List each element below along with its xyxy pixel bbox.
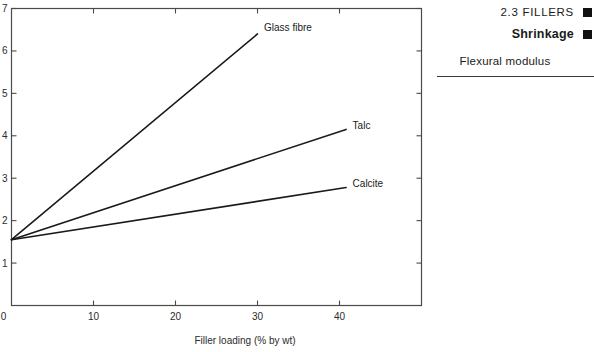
- x-tick-label: 40: [334, 311, 346, 322]
- series-labels-group: Glass fibreTalcCalcite: [264, 22, 384, 189]
- black-square-marker-icon: [583, 30, 592, 39]
- page-header-panel: 2.3 FILLERS Shrinkage Flexural modulus: [430, 0, 594, 352]
- running-head-label: 2.3 FILLERS: [500, 6, 574, 18]
- chart-figure: 1234567 010203040 Glass fibreTalcCalcite…: [0, 0, 430, 352]
- x-tick-label: 10: [88, 311, 100, 322]
- caption-divider: [437, 76, 594, 77]
- x-tick-label: 30: [252, 311, 264, 322]
- figure-caption: Flexural modulus: [430, 55, 594, 67]
- x-tick-label: 0: [1, 311, 7, 322]
- flexural-modulus-line-chart: 1234567 010203040 Glass fibreTalcCalcite…: [0, 0, 430, 352]
- x-axis-title: Filler loading (% by wt): [194, 335, 295, 346]
- y-tick-label: 7: [2, 3, 8, 14]
- series-label-calcite: Calcite: [353, 178, 384, 189]
- series-lines-group: [12, 34, 347, 240]
- plot-frame: [12, 9, 422, 306]
- series-line-glass-fibre: [12, 34, 258, 240]
- y-tick-label: 4: [2, 130, 8, 141]
- y-tick-label: 5: [2, 88, 8, 99]
- running-head: 2.3 FILLERS: [430, 6, 594, 18]
- series-line-calcite: [12, 188, 347, 240]
- y-axis-tick-labels: 1234567: [2, 3, 8, 269]
- y-tick-label: 2: [2, 215, 8, 226]
- section-title: Shrinkage: [430, 27, 594, 41]
- y-tick-label: 1: [2, 258, 8, 269]
- y-axis-tick-marks: [12, 9, 422, 264]
- black-square-marker-icon: [583, 8, 592, 17]
- series-label-talc: Talc: [353, 120, 371, 131]
- x-axis-tick-labels: 010203040: [1, 311, 346, 322]
- section-title-label: Shrinkage: [512, 27, 574, 41]
- y-tick-label: 3: [2, 173, 8, 184]
- x-axis-tick-marks: [94, 9, 340, 306]
- x-tick-label: 20: [170, 311, 182, 322]
- series-line-talc: [12, 129, 347, 239]
- page-root: 1234567 010203040 Glass fibreTalcCalcite…: [0, 0, 594, 352]
- y-tick-label: 6: [2, 45, 8, 56]
- series-label-glass-fibre: Glass fibre: [264, 22, 312, 33]
